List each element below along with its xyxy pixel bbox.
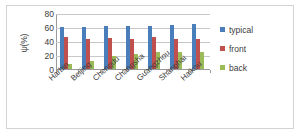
legend-swatch-icon: [220, 46, 225, 51]
legend-label: typical: [229, 25, 253, 35]
y-tick-label: 40: [45, 38, 54, 46]
y-axis-tick-labels: 806040200: [32, 14, 54, 70]
x-axis-category-labels: HarbinBeijingChengduChangshaGuangzhouSha…: [56, 72, 216, 112]
legend-item[interactable]: front: [220, 39, 292, 58]
y-tick-label: 20: [45, 52, 54, 60]
y-tick-label: 60: [45, 24, 54, 32]
chart-legend: typicalfrontback: [220, 20, 292, 77]
legend-swatch-icon: [220, 65, 225, 70]
legend-label: back: [229, 63, 247, 73]
y-axis-title: ψ(%): [17, 20, 31, 66]
legend-item[interactable]: typical: [220, 20, 292, 39]
legend-item[interactable]: back: [220, 58, 292, 77]
chart-frame: ψ(%) 806040200 HarbinBeijingChengduChang…: [6, 5, 294, 129]
legend-label: front: [229, 44, 246, 54]
legend-swatch-icon: [220, 27, 225, 32]
grouped-bar-chart: ψ(%) 806040200 HarbinBeijingChengduChang…: [7, 6, 295, 130]
y-tick-label: 80: [45, 10, 54, 18]
